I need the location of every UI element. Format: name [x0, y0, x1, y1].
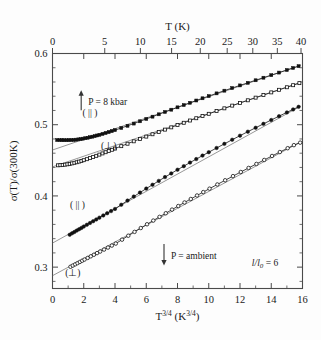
data-point [109, 209, 113, 213]
data-point [216, 183, 220, 187]
data-point [297, 65, 300, 68]
data-point [98, 216, 102, 220]
data-point [254, 79, 257, 82]
label-8kbar-parallel: ( || ) [83, 108, 98, 119]
x-tick-label: 0 [50, 294, 55, 305]
data-point [285, 86, 288, 89]
data-point [95, 154, 98, 157]
y-tick-label: 0.4 [34, 191, 48, 202]
data-point [126, 142, 129, 145]
y-tick-label: 0.5 [34, 119, 47, 130]
data-point [297, 105, 301, 109]
data-point [151, 115, 154, 118]
data-point [270, 91, 273, 94]
data-point [170, 172, 174, 176]
top-tick-label: 10 [135, 36, 146, 47]
data-point [201, 115, 204, 118]
data-point [176, 106, 179, 109]
data-point [246, 81, 249, 84]
data-point [105, 211, 109, 215]
data-point [133, 230, 137, 234]
data-point [151, 133, 154, 136]
label-ambient-parallel: ( || ) [70, 200, 85, 211]
data-point [246, 99, 249, 102]
chart-canvas: 02468101214160.30.40.50.6051015202530354… [0, 0, 321, 340]
data-point [182, 164, 186, 168]
x-tick-label: 8 [175, 294, 180, 305]
data-point [176, 124, 179, 127]
annotations-group: P = 8 kbarP = ambientl/l0 = 6( || )(⊥)( … [65, 90, 278, 278]
y-tick-label: 0.6 [34, 48, 47, 59]
data-point [176, 168, 180, 172]
data-point [101, 152, 104, 155]
top-tick-label: 20 [195, 36, 206, 47]
x-tick-label: 10 [204, 294, 215, 305]
data-series-group [56, 65, 302, 269]
data-point [139, 120, 142, 123]
x-tick-label: 14 [266, 294, 277, 305]
data-point [215, 146, 219, 150]
top-tick-label: 40 [296, 36, 307, 47]
data-point [278, 150, 282, 154]
data-point [230, 138, 234, 142]
data-point [145, 135, 148, 138]
data-point [98, 133, 101, 136]
data-point [208, 187, 212, 191]
data-point [98, 153, 101, 156]
data-point [127, 234, 131, 238]
data-point [102, 248, 106, 252]
data-point [177, 204, 181, 208]
data-point [151, 183, 155, 187]
data-point [120, 126, 123, 129]
data-point [298, 82, 301, 85]
data-point [145, 187, 149, 191]
data-point [157, 130, 160, 133]
data-point [215, 110, 218, 113]
data-point [254, 96, 257, 99]
data-point [292, 143, 296, 147]
data-point [270, 74, 273, 77]
label-8kbar-perp: (⊥) [101, 141, 116, 152]
top-axis-title: T (K) [165, 20, 190, 33]
data-point [102, 214, 106, 218]
data-point [188, 161, 192, 165]
data-point [223, 89, 226, 92]
axis-titles-group: T (K)T3/4 (K3/4)σ(T)/σ(300K) [7, 20, 200, 323]
top-tick-label: 15 [166, 36, 177, 47]
data-point [110, 130, 113, 133]
data-point [207, 112, 210, 115]
data-point [231, 104, 234, 107]
data-point [292, 66, 295, 69]
pressure-8kbar-label: P = 8 kbar [88, 97, 128, 107]
data-point [126, 124, 129, 127]
data-point [145, 223, 149, 227]
data-point [285, 69, 288, 72]
data-point [164, 211, 168, 215]
data-point [195, 117, 198, 120]
data-point [189, 119, 192, 122]
disorder-ratio: l/l0 = 6 [252, 258, 279, 270]
data-point [158, 215, 162, 219]
data-point [278, 71, 281, 74]
data-point [101, 132, 104, 135]
data-point [238, 134, 242, 138]
data-point [183, 201, 187, 205]
data-point [255, 162, 259, 166]
data-point [189, 101, 192, 104]
x-axis-title: T3/4 (K3/4) [156, 309, 200, 323]
label-ambient-perp: (⊥) [65, 268, 80, 279]
pressure-ambient-label: P = ambient [171, 251, 217, 261]
x-tick-label: 12 [235, 294, 246, 305]
data-point [246, 130, 250, 134]
data-point [201, 154, 205, 158]
data-point [286, 146, 290, 150]
data-point [114, 129, 117, 132]
data-point [157, 179, 161, 183]
data-point [262, 122, 266, 126]
data-point [170, 108, 173, 111]
data-point [195, 157, 199, 161]
data-point [278, 88, 281, 91]
data-point [285, 111, 289, 115]
data-point [82, 159, 85, 162]
x-tick-label: 16 [297, 294, 308, 305]
